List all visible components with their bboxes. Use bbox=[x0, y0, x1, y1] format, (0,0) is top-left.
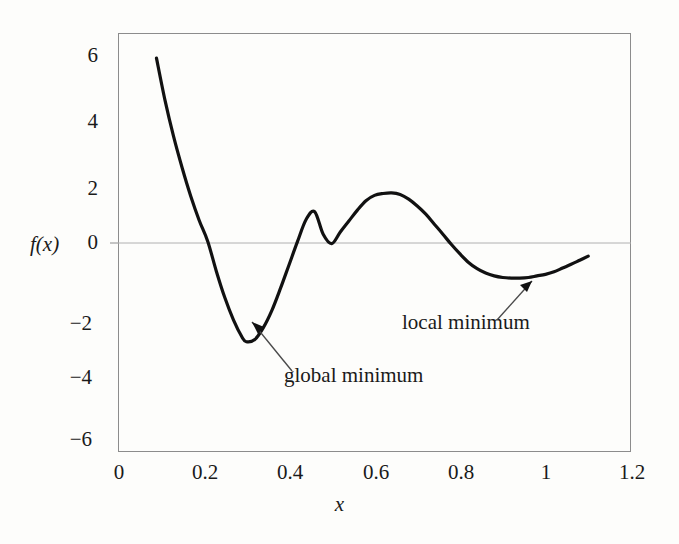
leader-global-minimum bbox=[252, 322, 292, 371]
chart-figure: 6 4 2 0 −2 −4 −6 0 0.2 0.4 0.6 0.8 1 1.2… bbox=[0, 0, 679, 544]
plot-canvas bbox=[0, 0, 679, 544]
function-curve bbox=[156, 58, 588, 342]
arrowhead-local-minimum bbox=[520, 281, 532, 292]
leader-local-minimum bbox=[497, 281, 532, 320]
